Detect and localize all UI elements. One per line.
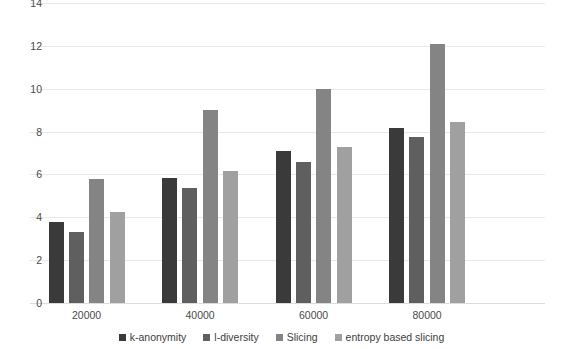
x-tick-label: 80000: [382, 310, 472, 321]
bar: [316, 89, 331, 303]
plot-area: [30, 3, 545, 303]
bar: [296, 162, 311, 303]
legend-label: Slicing: [287, 332, 318, 343]
legend-item[interactable]: Slicing: [276, 332, 318, 343]
legend-item[interactable]: l-diversity: [203, 332, 258, 343]
bar: [203, 110, 218, 303]
chart-legend: k-anonymityl-diversitySlicingentropy bas…: [0, 332, 563, 343]
y-tick-label: 6: [18, 169, 42, 180]
bar: [49, 222, 64, 303]
y-tick-label: 4: [18, 212, 42, 223]
bar: [389, 128, 404, 303]
gridline-10: [30, 89, 545, 90]
bar: [89, 179, 104, 303]
legend-item[interactable]: k-anonymity: [119, 332, 187, 343]
legend-swatch-icon: [276, 334, 283, 341]
bar: [223, 171, 238, 303]
bar: [69, 232, 84, 303]
y-tick-label: 2: [18, 255, 42, 266]
legend-swatch-icon: [119, 334, 126, 341]
bar: [276, 151, 291, 303]
y-tick-label: 14: [18, 0, 42, 8]
gridline-12: [30, 46, 545, 47]
legend-label: k-anonymity: [130, 332, 187, 343]
gridline-0: [30, 303, 545, 304]
bar: [430, 44, 445, 303]
x-tick-label: 60000: [269, 310, 359, 321]
y-tick-label: 0: [18, 298, 42, 309]
legend-swatch-icon: [203, 334, 210, 341]
x-tick-label: 20000: [42, 310, 132, 321]
bar: [110, 212, 125, 303]
bar-chart: k-anonymityl-diversitySlicingentropy bas…: [0, 0, 563, 349]
legend-item[interactable]: entropy based slicing: [335, 332, 445, 343]
bar: [337, 147, 352, 303]
y-tick-label: 12: [18, 41, 42, 52]
y-tick-label: 8: [18, 126, 42, 137]
gridline-14: [30, 3, 545, 4]
bar: [182, 188, 197, 303]
legend-label: entropy based slicing: [346, 332, 445, 343]
y-tick-label: 10: [18, 83, 42, 94]
x-tick-label: 40000: [155, 310, 245, 321]
legend-label: l-diversity: [214, 332, 258, 343]
bar: [409, 137, 424, 303]
gridline-8: [30, 132, 545, 133]
legend-swatch-icon: [335, 334, 342, 341]
bar: [450, 122, 465, 303]
bar: [162, 178, 177, 303]
